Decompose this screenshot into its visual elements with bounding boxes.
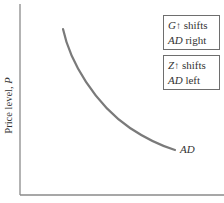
annotation-box-g: G↑ shifts AD right [163, 15, 220, 50]
annotation-g-verb: shifts [181, 19, 208, 31]
annotation-g-line1: G↑ shifts [168, 18, 219, 33]
ad-curve-label: AD [180, 143, 195, 155]
annotation-z-direction: left [183, 74, 200, 86]
ad-symbol: AD [168, 74, 183, 86]
y-axis-label-symbol: P [3, 77, 14, 83]
annotation-z-line1: Z↑ shifts [168, 58, 219, 73]
annotation-g-direction: right [183, 34, 207, 46]
variable-g: G [168, 19, 176, 31]
y-axis-label-text: Price level, [3, 84, 14, 134]
y-axis-label: Price level, P [3, 66, 14, 146]
ad-curve [63, 29, 175, 150]
annotation-z-line2: AD left [168, 73, 219, 87]
annotation-box-z: Z↑ shifts AD left [163, 55, 220, 90]
annotation-g-line2: AD right [168, 33, 219, 47]
annotation-z-verb: shifts [179, 59, 206, 71]
ad-symbol: AD [168, 34, 183, 46]
